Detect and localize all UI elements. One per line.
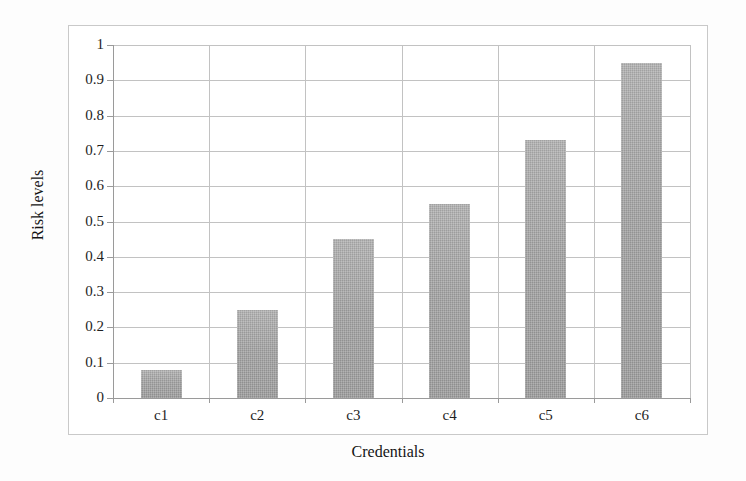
bar-slot xyxy=(209,45,305,398)
x-axis-tick-mark xyxy=(305,398,306,403)
y-axis-tick-label: 0.6 xyxy=(60,178,104,193)
bar-c5[interactable] xyxy=(525,140,566,398)
y-axis-tick-label: 1 xyxy=(60,37,104,52)
x-axis-tick-mark xyxy=(594,398,595,403)
bar-slot xyxy=(594,45,690,398)
y-axis-title: Risk levels xyxy=(29,145,47,265)
bar-slot xyxy=(305,45,401,398)
y-axis-tick-labels: 00.10.20.30.40.50.60.70.80.91 xyxy=(56,45,104,398)
y-axis-tick-label: 0.2 xyxy=(60,319,104,334)
y-axis-tick-label: 0.9 xyxy=(60,72,104,87)
x-axis-tick-label: c6 xyxy=(594,404,690,430)
bar-series xyxy=(113,45,690,398)
bar-slot xyxy=(498,45,594,398)
x-axis-tick-labels: c1c2c3c4c5c6 xyxy=(113,404,690,430)
bar-c2[interactable] xyxy=(237,310,278,398)
bar-chart: 00.10.20.30.40.50.60.70.80.91 c1c2c3c4c5… xyxy=(0,0,746,481)
y-axis-tick-label: 0.7 xyxy=(60,143,104,158)
bar-c4[interactable] xyxy=(429,204,470,398)
x-axis-tick-label: c4 xyxy=(402,404,498,430)
bar-c1[interactable] xyxy=(141,370,182,398)
y-axis-tick-label: 0.3 xyxy=(60,284,104,299)
bar-slot xyxy=(402,45,498,398)
y-axis-tick-label: 0.1 xyxy=(60,355,104,370)
x-axis-tick-mark xyxy=(690,398,691,403)
bar-c3[interactable] xyxy=(333,239,374,398)
x-axis-tick-mark xyxy=(209,398,210,403)
x-axis-tick-mark xyxy=(113,398,114,403)
bar-slot xyxy=(113,45,209,398)
x-axis-tick-mark xyxy=(402,398,403,403)
x-axis-tick-label: c1 xyxy=(113,404,209,430)
y-axis-tick-label: 0 xyxy=(60,390,104,405)
x-axis-tick-label: c3 xyxy=(305,404,401,430)
y-axis-tick-label: 0.4 xyxy=(60,249,104,264)
x-axis-title: Credentials xyxy=(68,443,708,461)
y-axis-tick-label: 0.5 xyxy=(60,214,104,229)
x-axis-tick-label: c2 xyxy=(209,404,305,430)
x-axis-tick-label: c5 xyxy=(498,404,594,430)
bar-c6[interactable] xyxy=(621,63,662,398)
y-axis-tick-label: 0.8 xyxy=(60,108,104,123)
x-axis-tick-mark xyxy=(498,398,499,403)
